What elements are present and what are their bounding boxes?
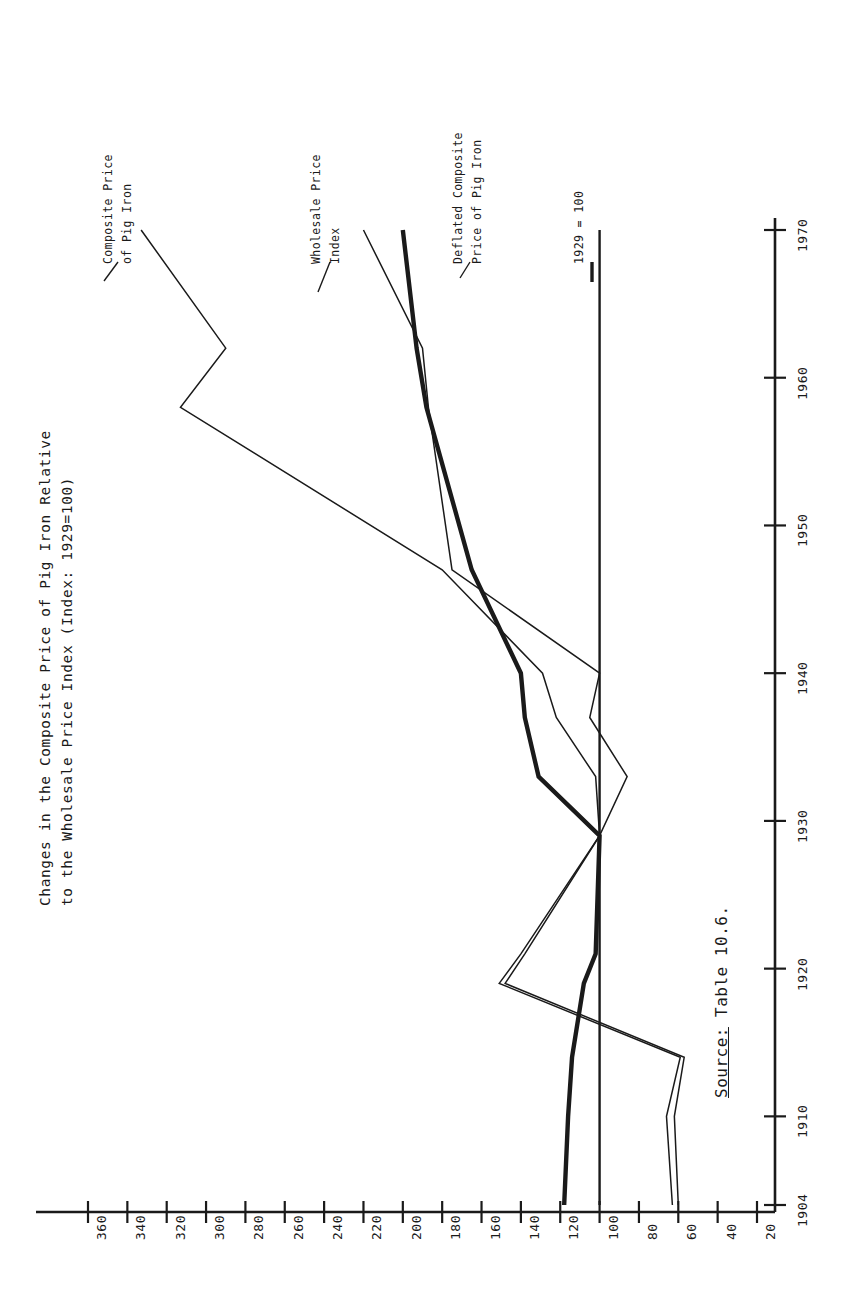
- series-leader-line-0: [104, 262, 118, 281]
- value-axis-tick-label: 140: [527, 1215, 542, 1240]
- value-axis-tick-label: 40: [724, 1223, 739, 1240]
- series-leader-line-2: [460, 262, 470, 278]
- value-axis-tick-label: 60: [684, 1223, 699, 1240]
- value-axis-tick-label: 20: [763, 1223, 778, 1240]
- value-axis-tick-label: 240: [330, 1215, 345, 1240]
- year-axis-tick-label: 1940: [795, 662, 810, 695]
- year-axis-tick-label: 1960: [795, 366, 810, 399]
- series-line-0: [141, 230, 684, 1205]
- year-axis-tick-label: 1904: [795, 1194, 810, 1227]
- axes-group: [36, 218, 786, 1223]
- year-axis-tick-label: 1950: [795, 514, 810, 547]
- value-axis-tick-label: 220: [369, 1215, 384, 1240]
- value-axis-tick-label: 340: [133, 1215, 148, 1240]
- year-axis-tick-label: 1970: [795, 219, 810, 252]
- value-axis-tick-label: 280: [251, 1215, 266, 1240]
- series-line-1: [363, 230, 680, 1205]
- value-axis-tick-label: 80: [645, 1223, 660, 1240]
- value-axis-tick-label: 200: [409, 1215, 424, 1240]
- value-axis-tick-label: 180: [448, 1215, 463, 1240]
- value-axis-tick-label: 360: [94, 1215, 109, 1240]
- value-axis-tick-label: 160: [488, 1215, 503, 1240]
- value-axis-tick-label: 300: [212, 1215, 227, 1240]
- year-axis-tick-label: 1920: [795, 957, 810, 990]
- series-leader-line-1: [318, 262, 330, 292]
- value-axis-tick-label: 320: [173, 1215, 188, 1240]
- year-axis-tick-label: 1910: [795, 1105, 810, 1138]
- value-axis-tick-label: 100: [606, 1215, 621, 1240]
- value-axis-tick-label: 120: [566, 1215, 581, 1240]
- value-axis-tick-label: 260: [291, 1215, 306, 1240]
- year-axis-tick-label: 1930: [795, 810, 810, 843]
- series-line-2: [403, 230, 600, 1205]
- chart-plot-area: [0, 0, 864, 1305]
- series-group: [104, 230, 684, 1205]
